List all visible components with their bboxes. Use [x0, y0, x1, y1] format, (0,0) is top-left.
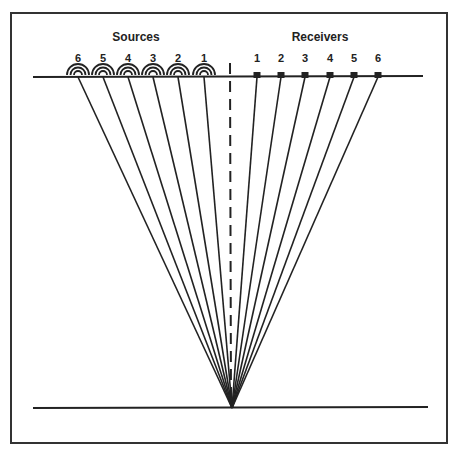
receiver-3: 3 [302, 52, 309, 78]
source-label: 5 [100, 52, 106, 64]
surface-line [33, 76, 423, 77]
receiver-label: 4 [327, 52, 334, 64]
receiver-ray [232, 77, 305, 408]
geophone-icon [278, 72, 285, 78]
source-label: 3 [150, 52, 156, 64]
receiver-5: 5 [351, 52, 358, 78]
receiver-2: 2 [278, 52, 285, 78]
geophone-icon [254, 72, 261, 78]
source-ray [128, 77, 232, 408]
source-label: 1 [201, 52, 207, 64]
geophone-icon [351, 72, 358, 78]
wave-icon [74, 71, 82, 75]
midpoint-dashed-line [230, 63, 231, 405]
wave-icon [124, 71, 132, 75]
source-6: 6 [67, 52, 89, 75]
source-label: 6 [75, 52, 81, 64]
receiver-4: 4 [327, 52, 334, 78]
source-2: 2 [167, 52, 189, 75]
source-4: 4 [117, 52, 139, 75]
wave-icon [149, 71, 157, 75]
source-ray [153, 77, 232, 408]
source-label: 2 [175, 52, 181, 64]
receivers-group: 123456 [254, 52, 382, 78]
geophone-icon [302, 72, 309, 78]
receiver-label: 2 [278, 52, 284, 64]
receivers-title: Receivers [292, 30, 349, 44]
source-label: 4 [125, 52, 132, 64]
receiver-ray [232, 77, 281, 408]
reflector-line [33, 407, 428, 408]
source-ray [103, 77, 232, 408]
source-1: 1 [193, 52, 215, 75]
receiver-ray [232, 77, 354, 408]
geophone-icon [375, 72, 382, 78]
source-5: 5 [92, 52, 114, 75]
sources-title: Sources [112, 30, 160, 44]
ray-paths [78, 77, 378, 408]
wave-icon [99, 71, 107, 75]
receiver-1: 1 [254, 52, 261, 78]
geophone-icon [327, 72, 334, 78]
receiver-ray [232, 77, 330, 408]
source-ray [178, 77, 232, 408]
sources-group: 654321 [67, 52, 215, 75]
common-midpoint-diagram: Sources Receivers 654321 123456 [0, 0, 457, 452]
receiver-label: 3 [302, 52, 308, 64]
receiver-label: 1 [254, 52, 260, 64]
wave-icon [174, 71, 182, 75]
receiver-label: 5 [351, 52, 357, 64]
receiver-label: 6 [375, 52, 381, 64]
source-3: 3 [142, 52, 164, 75]
receiver-6: 6 [375, 52, 382, 78]
wave-icon [200, 71, 208, 75]
